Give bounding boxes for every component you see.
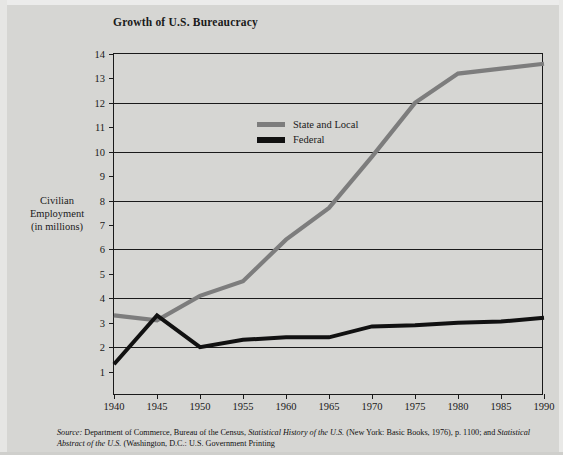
source-line1-b: (New York: Basic [344, 428, 405, 437]
source-label: Source: [57, 428, 82, 437]
x-axis-tick-label: 1960 [276, 401, 297, 412]
source-line1-italic: Statistical History of the U.S. [248, 428, 344, 437]
x-axis-tick-label: 1965 [319, 401, 340, 412]
source-line2-b: (Washington, D.C.: U.S. Government Print… [121, 439, 275, 448]
y-axis-title-line-2: Employment [8, 207, 106, 220]
x-axis-tick-label: 1975 [405, 401, 426, 412]
legend-item-federal: Federal [257, 132, 358, 147]
x-axis-tick-label: 1940 [104, 401, 125, 412]
y-axis-tick-label: 7 [100, 220, 105, 231]
y-axis-tick-label: 4 [100, 293, 105, 304]
source-line2-a: Books, 1976), p. 1100; and [407, 428, 498, 437]
legend-swatch-federal [257, 137, 285, 143]
y-axis-tick-label: 8 [100, 195, 105, 206]
y-axis-tick-label: 6 [100, 244, 105, 255]
y-axis-title-line-1: Civilian [8, 194, 106, 207]
legend-label-state-and-local: State and Local [293, 119, 358, 130]
series-line-state-and-local [114, 64, 544, 321]
chart-title: Growth of U.S. Bureaucracy [113, 16, 258, 28]
page-edge-right [559, 0, 563, 455]
y-axis-tick-label: 10 [95, 146, 106, 157]
legend-item-state-and-local: State and Local [257, 117, 358, 132]
plot-area: 1234567891011121314 19401945195019551960… [113, 53, 543, 395]
y-axis-tick-label: 5 [100, 268, 105, 279]
source-note: Source: Department of Commerce, Bureau o… [57, 428, 537, 449]
series-line-federal [114, 315, 544, 364]
y-axis-tick-label: 12 [95, 97, 106, 108]
x-axis-tick-label: 1990 [534, 401, 555, 412]
x-axis-tick-label: 1980 [448, 401, 469, 412]
x-axis-tick-label: 1985 [491, 401, 512, 412]
y-axis-tick-label: 13 [95, 73, 106, 84]
page-edge-left [0, 0, 7, 455]
x-axis-tick-label: 1950 [190, 401, 211, 412]
y-axis-tick-label: 14 [95, 49, 106, 60]
x-axis-tick-label: 1955 [233, 401, 254, 412]
y-axis-tick-label: 1 [100, 366, 105, 377]
y-axis-tick-label: 2 [100, 342, 105, 353]
page-edge-top [0, 0, 563, 5]
chart-legend: State and Local Federal [257, 117, 358, 147]
x-axis-tick-label: 1970 [362, 401, 383, 412]
y-axis-tick-label: 9 [100, 171, 105, 182]
figure-page: Growth of U.S. Bureaucracy Civilian Empl… [0, 0, 563, 455]
y-axis-tick-label: 3 [100, 317, 105, 328]
y-axis-tick-label: 11 [95, 122, 105, 133]
x-axis-tick [544, 394, 545, 399]
legend-swatch-state-and-local [257, 122, 285, 127]
source-line1-a: Department of Commerce, Bureau of the Ce… [82, 428, 248, 437]
y-axis-title: Civilian Employment (in millions) [8, 194, 106, 233]
x-axis-tick-label: 1945 [147, 401, 168, 412]
legend-label-federal: Federal [293, 134, 325, 145]
y-axis-title-line-3: (in millions) [8, 220, 106, 233]
series-layer [114, 54, 544, 396]
